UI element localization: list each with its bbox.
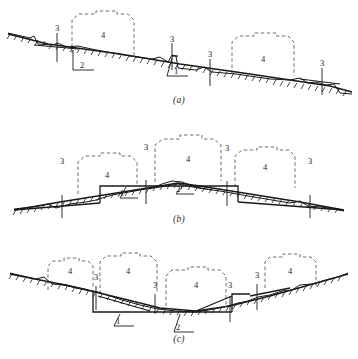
callout-a-4: 1	[174, 66, 178, 76]
callout-c-0: 4	[68, 266, 73, 276]
figure-sheet: 3 4 2 3 1 3 4 3 (a)	[0, 0, 358, 359]
callout-a-1: 4	[101, 30, 106, 40]
callout-b-6: 3	[225, 143, 229, 153]
callout-b-2: 3	[144, 142, 148, 152]
callout-b-8: 3	[308, 156, 312, 166]
callout-b-7: 4	[263, 162, 268, 172]
clearance-gauge-group	[72, 11, 294, 76]
callout-c-1: 3	[94, 272, 98, 282]
leader-line-group	[73, 50, 188, 76]
callout-c-4: 3	[153, 280, 157, 290]
callout-b-5: 2	[176, 184, 180, 194]
panel-b-caption: (b)	[0, 214, 358, 224]
callout-b-1: 4	[105, 170, 110, 180]
callout-a-2: 2	[80, 60, 84, 70]
stake-marker-group	[57, 33, 322, 95]
panel-a: 3 4 2 3 1 3 4 3 (a)	[0, 0, 358, 110]
leader-line-group	[120, 187, 194, 198]
ground-surface	[9, 273, 348, 316]
panel-a-caption: (a)	[0, 95, 358, 105]
clearance-gauge-group	[48, 253, 316, 306]
callout-label-group: 3 4 3 4 1 2 3 4 3	[60, 142, 312, 198]
callout-c-6: 2	[176, 322, 180, 332]
callout-b-4: 1	[120, 188, 124, 198]
panel-b: 3 4 3 4 1 2 3 4 3 (b)	[0, 118, 358, 230]
callout-c-8: 3	[255, 270, 259, 280]
panel-a-drawing: 3 4 2 3 1 3 4 3	[0, 0, 358, 110]
leader-line-group	[114, 314, 194, 332]
callout-b-3: 4	[186, 154, 191, 164]
callout-c-3: 1	[116, 316, 120, 326]
callout-a-3: 3	[170, 34, 174, 44]
panel-c-caption: (c)	[0, 334, 358, 344]
callout-c-2: 4	[126, 266, 131, 276]
ground-surface	[7, 33, 352, 96]
callout-a-6: 4	[261, 54, 266, 64]
callout-c-9: 4	[288, 266, 293, 276]
callout-a-5: 3	[208, 49, 212, 59]
callout-c-5: 4	[194, 280, 199, 290]
panel-c: 4 3 4 1 3 4 2 3 3 4 (c)	[0, 238, 358, 356]
callout-a-7: 3	[320, 58, 324, 68]
callout-a-0: 3	[55, 23, 59, 33]
callout-b-0: 3	[60, 156, 64, 166]
callout-c-7: 3	[228, 280, 232, 290]
